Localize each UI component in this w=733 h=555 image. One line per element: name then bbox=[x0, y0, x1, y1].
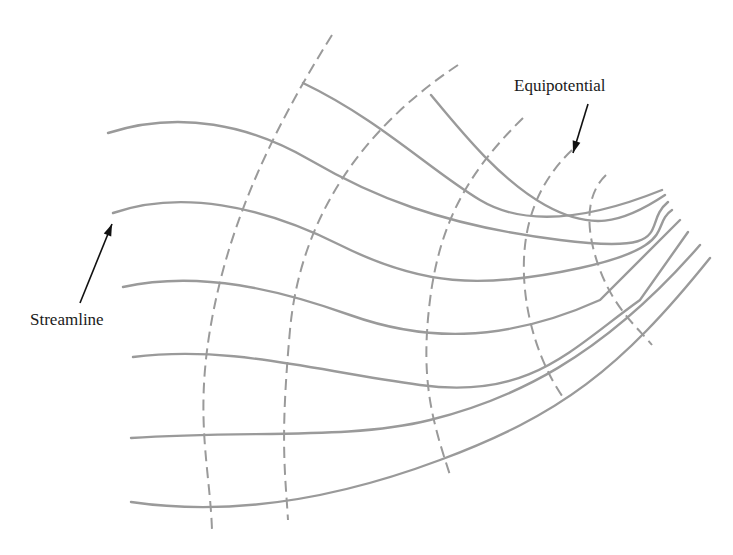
streamline-label: Streamline bbox=[30, 310, 104, 330]
equipotential-e2 bbox=[284, 65, 458, 520]
streamline-s1 bbox=[303, 83, 662, 217]
equipotential-e5 bbox=[589, 175, 652, 345]
streamline-s4 bbox=[113, 202, 672, 281]
equipotential-lines bbox=[203, 35, 652, 530]
flow-net-diagram bbox=[0, 0, 733, 555]
streamline-s6 bbox=[133, 232, 688, 388]
streamline-arrow-icon bbox=[80, 224, 112, 303]
streamline-s3 bbox=[108, 122, 668, 244]
equipotential-e3 bbox=[426, 118, 523, 475]
streamline-s8 bbox=[131, 258, 710, 507]
equipotential-label: Equipotential bbox=[514, 76, 606, 96]
equipotential-arrow-icon bbox=[573, 104, 588, 153]
streamline-s5 bbox=[123, 220, 680, 334]
streamlines bbox=[108, 83, 710, 507]
